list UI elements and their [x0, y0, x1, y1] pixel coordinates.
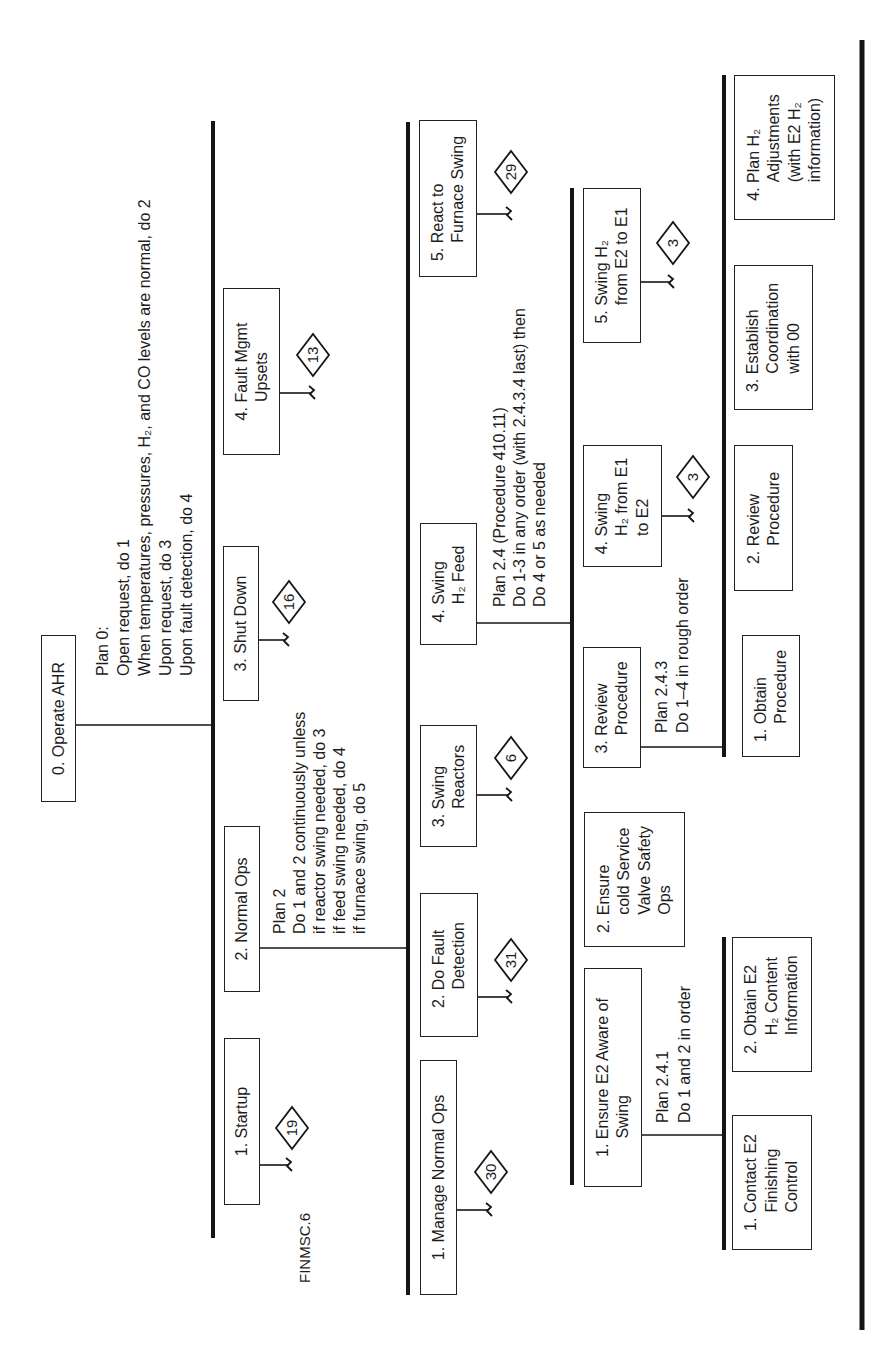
- node-label-line: Valve Safety: [635, 826, 656, 933]
- break-connector-swing-reactors: [477, 788, 512, 801]
- node-label: 2. Ensure cold Service Valve Safety Ops: [594, 826, 676, 933]
- node-label: 5. Swing H₂ from E2 to E1: [592, 207, 632, 323]
- node-plan-h2-adjustments: 4. Plan H₂ Adjustments (with E2 H₂ infor…: [734, 75, 835, 220]
- node-label-line: 3. Shut Down: [231, 575, 251, 671]
- node-label: 3. Establish Coordination with 00: [743, 283, 805, 392]
- node-label: 4. Fault Mgmt Upsets: [232, 323, 272, 421]
- break-connector-do-fault-detection: [478, 990, 512, 1003]
- node-label: 2. Normal Ops: [232, 857, 252, 960]
- plan-2-text: Plan 2 Do 1 and 2 continuously unless if…: [270, 712, 370, 934]
- node-label-line: with 00: [784, 283, 805, 392]
- node-startup: 1. Startup: [224, 1038, 260, 1205]
- node-label-line: Finishing: [762, 1134, 783, 1231]
- node-react-furnace-swing: 5. React to Furnace Swing: [419, 120, 477, 277]
- plan-2-4-text: Plan 2.4 (Procedure 410.11) Do 1-3 in an…: [490, 308, 550, 607]
- node-obtain-procedure: 1. Obtain Procedure: [742, 635, 800, 757]
- node-label: 1. Startup: [232, 1087, 252, 1156]
- ref-number: 16: [280, 594, 297, 611]
- node-label-line: 5. React to: [428, 136, 448, 261]
- node-label-line: 4. Swing: [592, 458, 613, 555]
- plan-line: Upon request, do 3: [155, 199, 176, 676]
- node-swing-h2-feed: 4. Swing H₂ Feed: [420, 523, 477, 645]
- node-label-line: Information: [782, 955, 803, 1053]
- node-label: 1. Obtain Procedure: [751, 650, 791, 742]
- plan-2-4-3-text: Plan 2.4.3 Do 1–4 in rough order: [651, 577, 693, 733]
- node-label: 3. Shut Down: [231, 575, 251, 671]
- node-label: 3. Review Procedure: [592, 661, 632, 753]
- node-swing-h2-e1-to-e2: 4. Swing H₂ from E1 to E2: [583, 445, 662, 567]
- node-fault-mgmt-upsets: 4. Fault Mgmt Upsets: [223, 288, 280, 455]
- plan-line: Upon fault detection, do 4: [176, 199, 197, 676]
- node-label: 1. Manage Normal Ops: [429, 1095, 449, 1260]
- break-connector-swing-h2-e1-to-e2: [662, 509, 694, 522]
- plan-line: Plan 2.4.1: [652, 986, 674, 1123]
- plan-line: Plan 2.4 (Procedure 410.11): [490, 308, 510, 607]
- node-label: 0. Operate AHR: [49, 662, 69, 775]
- node-label-line: to E2: [633, 458, 654, 555]
- node-label-line: from E2 to E1: [612, 207, 632, 323]
- node-label: 3. Swing Reactors: [429, 745, 469, 827]
- plan-line: if furnace swing, do 5: [350, 712, 370, 934]
- plan-line: Do 4 or 5 as needed: [530, 308, 550, 607]
- node-label-line: 2. Normal Ops: [232, 857, 252, 960]
- node-label-line: 1. Contact E2: [741, 1134, 762, 1231]
- plan-line: When temperatures, pressures, H₂, and CO…: [134, 199, 155, 676]
- node-label-line: H₂ Feed: [449, 545, 469, 622]
- node-label-line: 1. Startup: [232, 1087, 252, 1156]
- break-connector-swing-h2-e2-to-e1: [641, 275, 674, 288]
- plan-line: Plan 2.4.3: [651, 577, 672, 733]
- node-label-line: 3. Review: [592, 661, 612, 753]
- node-label: 4. Swing H₂ from E1 to E2: [592, 458, 654, 555]
- node-label: 2. Review Procedure: [744, 472, 784, 564]
- node-label-line: Swing: [613, 998, 633, 1157]
- node-label-line: H₂ Content: [762, 955, 783, 1053]
- node-label-line: 3. Establish: [743, 283, 764, 392]
- node-label-line: Adjustments: [764, 94, 785, 200]
- node-label: 1. Contact E2 Finishing Control: [741, 1134, 803, 1231]
- node-label-line: 0. Operate AHR: [49, 662, 69, 775]
- figure-label: FINMSC.6: [296, 1213, 313, 1283]
- node-do-fault-detection: 2. Do Fault Detection: [420, 893, 478, 1037]
- break-connector-fault-mgmt: [280, 386, 315, 399]
- node-label-line: 4. Fault Mgmt: [232, 323, 252, 421]
- ref-number: 6: [502, 754, 519, 762]
- ref-number: 3: [684, 473, 701, 481]
- node-establish-coordination: 3. Establish Coordination with 00: [734, 265, 813, 410]
- ref-number: 29: [502, 164, 519, 181]
- task-analysis-diagram: 19 16 13 30 31 6 29 3 3 0. Operate AHR 1…: [0, 0, 876, 1363]
- node-label-line: cold Service: [614, 826, 635, 933]
- node-review-procedure-main: 3. Review Procedure: [583, 647, 641, 768]
- node-label-line: 4. Swing: [429, 545, 449, 622]
- node-obtain-e2-h2-content: 2. Obtain E2 H₂ Content Information: [732, 937, 812, 1072]
- break-connector-manage-normal-ops: [457, 1203, 492, 1216]
- node-contact-e2: 1. Contact E2 Finishing Control: [732, 1115, 812, 1250]
- node-label-line: 2. Obtain E2: [741, 955, 762, 1053]
- node-label: 1. Ensure E2 Aware of Swing: [593, 998, 633, 1157]
- node-label-line: Upsets: [252, 323, 272, 421]
- node-label-line: (with E2 H₂: [785, 94, 806, 200]
- node-label-line: 1. Manage Normal Ops: [429, 1095, 449, 1260]
- break-connector-shut-down: [259, 633, 289, 646]
- node-label-line: Reactors: [449, 745, 469, 827]
- node-ensure-cold-service: 2. Ensure cold Service Valve Safety Ops: [584, 812, 685, 947]
- node-label: 4. Swing H₂ Feed: [429, 545, 469, 622]
- node-shut-down: 3. Shut Down: [223, 546, 259, 701]
- node-label-line: Detection: [449, 922, 469, 1008]
- plan-line: Plan 0:: [92, 199, 113, 676]
- node-normal-ops: 2. Normal Ops: [224, 826, 260, 992]
- plan-2-4-1-text: Plan 2.4.1 Do 1 and 2 in order: [652, 986, 696, 1123]
- node-label-line: Procedure: [764, 472, 784, 564]
- node-label-line: Procedure: [612, 661, 632, 753]
- ref-number: 19: [283, 1120, 300, 1137]
- plan-line: Plan 2: [270, 712, 290, 934]
- node-label: 4. Plan H₂ Adjustments (with E2 H₂ infor…: [744, 94, 826, 200]
- plan-line: Do 1-3 in any order (with 2.4.3.4 last) …: [510, 308, 530, 607]
- plan-line: Do 1 and 2 in order: [674, 986, 696, 1123]
- node-label-line: 2. Do Fault: [429, 922, 449, 1008]
- node-label-line: 1. Ensure E2 Aware of: [593, 998, 613, 1157]
- node-label-line: H₂ from E1: [612, 458, 633, 555]
- ref-number: 31: [502, 952, 519, 969]
- node-swing-reactors: 3. Swing Reactors: [420, 725, 477, 847]
- node-swing-h2-e2-to-e1: 5. Swing H₂ from E2 to E1: [583, 188, 641, 343]
- node-review-procedure: 2. Review Procedure: [734, 445, 793, 591]
